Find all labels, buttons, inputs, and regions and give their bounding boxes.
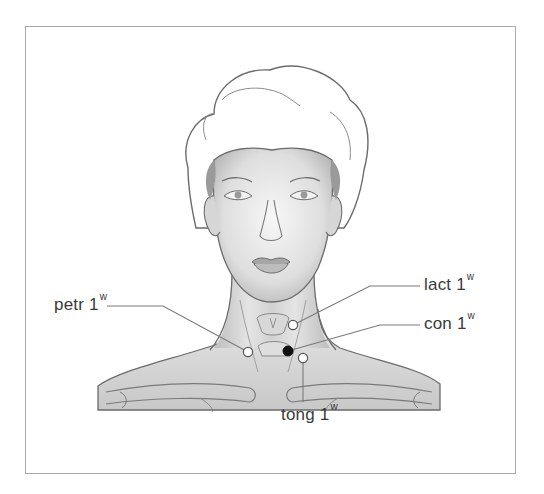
point-con (283, 346, 293, 356)
point-tong (298, 353, 307, 362)
label-superscript: w (468, 310, 475, 321)
label-text: lact 1 (424, 275, 466, 294)
label-lact: lact 1w (424, 274, 474, 295)
label-superscript: w (100, 291, 107, 302)
label-text: petr 1 (54, 295, 99, 314)
label-con: con 1w (424, 313, 475, 334)
label-tong: tong 1w (281, 404, 338, 425)
face (204, 148, 342, 302)
point-lact (288, 320, 297, 329)
anatomy-illustration (0, 0, 544, 494)
label-superscript: w (330, 401, 337, 412)
label-petr: petr 1w (54, 294, 107, 315)
label-text: con 1 (424, 314, 467, 333)
point-petr (243, 347, 252, 356)
label-text: tong 1 (281, 405, 329, 424)
label-superscript: w (467, 271, 474, 282)
